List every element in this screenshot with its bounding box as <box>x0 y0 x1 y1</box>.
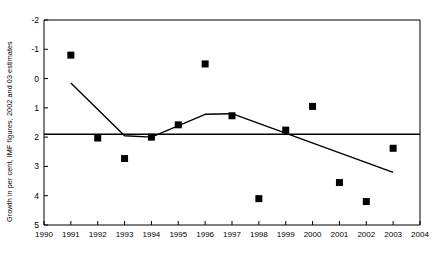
data-point-marker <box>229 112 236 119</box>
y-tick-label: -2 <box>31 15 39 25</box>
data-point-marker <box>336 179 343 186</box>
x-tick-label: 1994 <box>143 230 161 239</box>
x-tick-label: 1991 <box>62 230 80 239</box>
x-tick-label: 2000 <box>304 230 322 239</box>
data-point-marker <box>202 60 209 67</box>
data-point-marker <box>390 145 397 152</box>
data-point-marker <box>148 134 155 141</box>
data-point-marker <box>309 103 316 110</box>
x-tick-label: 2001 <box>331 230 349 239</box>
x-tick-label: 1993 <box>116 230 134 239</box>
x-tick-label: 1995 <box>169 230 187 239</box>
data-point-marker <box>121 155 128 162</box>
trend-line-series <box>71 83 393 172</box>
data-point-marker <box>94 135 101 142</box>
y-axis-tick-labels: 543210-1-2 <box>31 15 39 230</box>
y-axis-title: Growth in per cent, IMF figures, 2002 an… <box>5 41 14 222</box>
y-axis-ticks <box>44 20 48 225</box>
growth-scatter-chart: 543210-1-2 19901991199219931994199519961… <box>0 0 444 258</box>
x-axis-tick-labels: 1990199119921993199419951996199719981999… <box>35 230 429 239</box>
y-tick-label: 5 <box>34 220 39 230</box>
data-point-marker <box>67 52 74 59</box>
y-tick-label: 2 <box>34 132 39 142</box>
plot-frame <box>44 20 420 225</box>
x-tick-label: 1998 <box>250 230 268 239</box>
x-axis: 1990199119921993199419951996199719981999… <box>35 221 429 239</box>
x-tick-label: 1997 <box>223 230 241 239</box>
y-tick-label: -1 <box>31 44 39 54</box>
chart-container: 543210-1-2 19901991199219931994199519961… <box>0 0 444 258</box>
y-tick-label: 1 <box>34 103 39 113</box>
y-tick-label: 0 <box>34 74 39 84</box>
x-tick-label: 2004 <box>411 230 429 239</box>
data-point-marker <box>282 127 289 134</box>
y-tick-label: 4 <box>34 191 39 201</box>
x-tick-label: 1992 <box>89 230 107 239</box>
data-point-marker <box>255 195 262 202</box>
x-tick-label: 2003 <box>384 230 402 239</box>
data-point-marker <box>363 198 370 205</box>
x-tick-label: 1999 <box>277 230 295 239</box>
y-tick-label: 3 <box>34 161 39 171</box>
y-axis: 543210-1-2 <box>31 15 48 230</box>
x-tick-label: 1996 <box>196 230 214 239</box>
data-point-marker <box>175 121 182 128</box>
x-tick-label: 1990 <box>35 230 53 239</box>
x-tick-label: 2002 <box>357 230 375 239</box>
